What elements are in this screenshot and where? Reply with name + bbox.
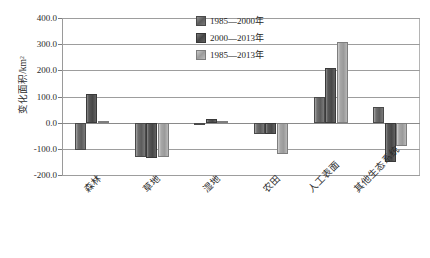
legend-swatch-icon <box>196 33 206 43</box>
bar <box>217 121 228 123</box>
bar <box>314 97 325 123</box>
legend-item: 1985—2013年 <box>196 46 316 63</box>
bar <box>98 121 109 123</box>
legend-item: 2000—2013年 <box>196 29 316 46</box>
bar <box>206 119 217 122</box>
bar <box>396 123 407 147</box>
bar-chart: 变化面积/km² 400.0300.0200.0100.00.0-100.0-2… <box>0 0 430 258</box>
legend-label: 1985—2000年 <box>210 14 264 27</box>
legend-item: 1985—2000年 <box>196 12 316 29</box>
y-tick-label: 400.0 <box>3 13 57 23</box>
x-axis-category-labels: 森林草地湿地农田人工表面其他生态系统 <box>62 175 420 255</box>
legend-swatch-icon <box>196 16 206 26</box>
bar <box>86 94 97 123</box>
y-tick-label: 300.0 <box>3 39 57 49</box>
bar <box>265 123 276 135</box>
legend-swatch-icon <box>196 50 206 60</box>
bar <box>158 123 169 158</box>
bar <box>146 123 157 158</box>
bar <box>254 123 265 134</box>
y-tick-label: 0.0 <box>3 118 57 128</box>
bar <box>194 123 205 125</box>
x-axis-label: 草地 <box>139 171 163 195</box>
x-axis-label: 森林 <box>80 171 104 195</box>
bar <box>75 123 86 150</box>
y-tick-label: 100.0 <box>3 92 57 102</box>
bar <box>277 123 288 154</box>
bar <box>373 107 384 122</box>
legend-label: 2000—2013年 <box>210 31 264 44</box>
y-tick-label: -100.0 <box>3 144 57 154</box>
bar <box>337 42 348 123</box>
x-axis-label: 农田 <box>259 171 283 195</box>
legend: 1985—2000年2000—2013年1985—2013年 <box>196 12 316 63</box>
x-axis-label: 湿地 <box>199 171 223 195</box>
y-tick-label: -200.0 <box>3 170 57 180</box>
y-tick-label: 200.0 <box>3 65 57 75</box>
y-axis-tick-labels: 400.0300.0200.0100.00.0-100.0-200.0 <box>0 18 57 175</box>
legend-label: 1985—2013年 <box>210 48 264 61</box>
bar <box>325 68 336 123</box>
bar <box>135 123 146 158</box>
